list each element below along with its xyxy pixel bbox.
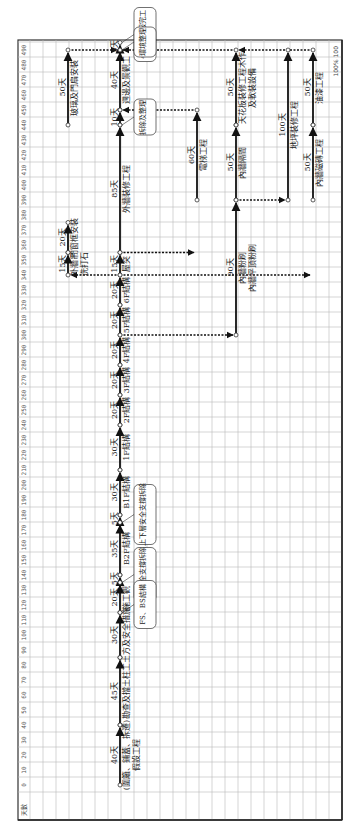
task-label: 3F結構 <box>121 367 131 394</box>
axis-tick: 120 <box>20 599 27 610</box>
task-label: 電梯工程 <box>198 139 208 171</box>
task-duration: 60天 <box>187 146 196 164</box>
callout-text: 環境整理 <box>138 28 147 56</box>
axis-tick: 450 <box>20 104 27 115</box>
task-duration: 15天 <box>110 255 119 273</box>
task-label: 4F結構 <box>121 337 131 364</box>
axis-tick: 310 <box>20 314 27 325</box>
task-sublabel: 洗打石 <box>79 252 89 276</box>
task-duration: 50天 <box>303 78 312 96</box>
event-node <box>118 723 122 727</box>
task-duration: 45天 <box>110 682 119 700</box>
axis-tick: 330 <box>20 284 27 295</box>
event-node <box>234 198 238 202</box>
axis-tick: 10 <box>20 766 27 774</box>
event-node <box>195 108 199 112</box>
axis-header: 天數 <box>20 804 28 816</box>
axis-tick: 260 <box>20 389 27 400</box>
axis-tick: 290 <box>20 344 27 355</box>
axis-tick: 130 <box>20 584 27 595</box>
axis-tick: 300 <box>20 329 27 340</box>
axis-tick: 70 <box>20 676 27 684</box>
axis-tick: 380 <box>20 209 27 220</box>
task-label: 5F結構 <box>121 307 131 334</box>
event-node <box>311 123 315 127</box>
task-duration: 100天 <box>278 113 287 136</box>
task-label: 週邊及景觀工 <box>121 56 131 104</box>
event-node <box>118 468 122 472</box>
task-duration: 15天 <box>58 255 67 273</box>
task-duration: 5天 <box>110 572 119 585</box>
task-label: 外牆裝修工程 <box>121 165 131 213</box>
task-label: 油漆工程 <box>314 72 324 104</box>
task-duration: 20天 <box>110 311 119 329</box>
task-duration: 35天 <box>110 540 119 558</box>
axis-tick: 180 <box>20 509 27 520</box>
task-label: 玻璃及門扇安裝 <box>69 60 79 116</box>
task-duration: 20天 <box>110 588 119 606</box>
task-duration: 30天 <box>110 483 119 501</box>
task-label: 土方及安全措施 <box>121 607 131 663</box>
schedule-diagram: 0102030405060708090100110120130140150160… <box>0 0 362 829</box>
axis-tick: 270 <box>20 374 27 385</box>
task-duration: 30天 <box>110 626 119 644</box>
axis-tick: 110 <box>20 614 27 625</box>
axis-tick: 40 <box>20 721 27 729</box>
end-label: 100% 100 <box>332 46 339 77</box>
event-node <box>234 333 238 337</box>
task-sublabel: 假設工程 <box>131 739 141 771</box>
task-duration: 10天 <box>110 108 119 126</box>
axis-tick: 60 <box>20 691 27 699</box>
axis-tick: 80 <box>20 661 27 669</box>
axis-tick: 50 <box>20 706 27 714</box>
axis-tick: 390 <box>20 194 27 205</box>
task-duration: 5天 <box>110 40 119 53</box>
task-label: 6F結構 <box>121 277 131 304</box>
task-label: 勘查及擋土柱工 <box>121 663 131 719</box>
task-duration: 20天 <box>110 341 119 359</box>
axis-tick: 440 <box>20 119 27 130</box>
event-node <box>118 251 122 255</box>
event-node <box>118 108 122 112</box>
axis-tick: 20 <box>20 751 27 759</box>
callout-text: FS、BS結構 <box>138 584 147 625</box>
event-node <box>118 573 122 577</box>
callout-text: 上下層安全支撐拆除 <box>138 483 147 546</box>
event-node <box>286 198 290 202</box>
task-label: 內牆磁磚工程 <box>314 139 324 187</box>
axis-tick: 480 <box>20 59 27 70</box>
task-label: 屋突 <box>121 256 131 272</box>
task-duration: 50天 <box>303 153 312 171</box>
task-label: 地坪裝修工程 <box>289 101 299 149</box>
task-label: B1F結構 <box>121 476 131 509</box>
task-duration: 30天 <box>110 438 119 456</box>
axis-tick: 350 <box>20 254 27 265</box>
event-node <box>234 48 238 52</box>
axis-tick: 410 <box>20 164 27 175</box>
task-duration: 5天 <box>110 512 119 525</box>
task-label: 門窗框安裝 <box>69 218 79 258</box>
task-duration: 50天 <box>226 153 235 171</box>
task-duration: 20天 <box>110 371 119 389</box>
task-sublabel: 及軟裝設備 <box>247 68 257 108</box>
axis-tick: 250 <box>20 404 27 415</box>
axis-tick: 320 <box>20 299 27 310</box>
axis-tick: 370 <box>20 224 27 235</box>
axis-tick: 240 <box>20 419 27 430</box>
callout-text: 拆除及整理 <box>138 100 147 135</box>
task-label: (圍籬、鋪蓋、拆遷) <box>121 720 131 790</box>
axis-tick: 0 <box>20 783 27 787</box>
event-node <box>66 48 70 52</box>
event-node <box>195 198 199 202</box>
axis-tick: 430 <box>20 134 27 145</box>
task-duration: 20天 <box>110 401 119 419</box>
axis-tick: 220 <box>20 449 27 460</box>
task-duration: 50天 <box>58 78 67 96</box>
task-duration: 85天 <box>110 180 119 198</box>
axis-tick: 170 <box>20 524 27 535</box>
task-label: 施工觀 <box>121 586 131 610</box>
task-label: 內牆粉刷 <box>237 252 247 284</box>
event-node <box>311 198 315 202</box>
axis-tick: 280 <box>20 359 27 370</box>
task-label: 內牆隔間 <box>237 147 247 179</box>
